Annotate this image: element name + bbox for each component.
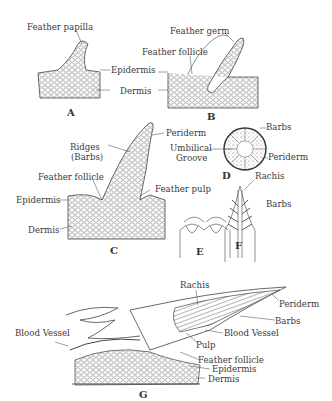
label-barbs-c: (Barbs) <box>71 153 103 162</box>
label-pulp: Pulp <box>196 341 216 350</box>
panel-label-g: G <box>139 389 148 400</box>
label-dermis-a: Dermis <box>120 87 151 96</box>
label-dermis-g: Dermis <box>208 375 239 384</box>
label-periderm-d: Periderm <box>268 153 308 162</box>
label-feather-papilla: Feather papilla <box>27 23 93 32</box>
panel-label-e: E <box>196 246 204 257</box>
label-ridges: Ridges <box>70 143 100 152</box>
panel-label-a: A <box>67 107 75 118</box>
label-groove: Groove <box>176 154 207 163</box>
label-barbs-f: Barbs <box>266 200 291 209</box>
panel-label-d: D <box>222 170 231 181</box>
label-periderm-g: Periderm <box>279 300 319 309</box>
panel-e-drawing <box>180 217 230 258</box>
label-epidermis-a: Epidermis <box>111 66 156 75</box>
label-feather-follicle-b: Feather follicle <box>142 48 208 57</box>
label-barbs-d: Barbs <box>266 123 291 132</box>
panel-label-b: B <box>207 111 215 122</box>
panel-label-f: F <box>235 240 242 251</box>
label-feather-pulp: Feather pulp <box>155 185 211 194</box>
label-dermis-c: Dermis <box>28 226 59 235</box>
label-blood-vessel-left: Blood Vessel <box>15 329 70 338</box>
panel-label-c: C <box>110 245 118 256</box>
label-rachis-f: Rachis <box>255 172 284 181</box>
label-epidermis-c: Epidermis <box>16 196 61 205</box>
label-umbilical: Umbilical <box>170 144 212 153</box>
label-periderm-c: Periderm <box>166 129 206 138</box>
label-barbs-g: Barbs <box>275 317 300 326</box>
label-epidermis-g: Epidermis <box>212 365 257 374</box>
label-blood-vessel-right: Blood Vessel <box>224 329 279 338</box>
panel-d-drawing <box>210 128 268 170</box>
panel-a-drawing <box>38 30 110 98</box>
label-feather-follicle-c: Feather follicle <box>38 173 104 182</box>
panel-b-drawing <box>158 33 258 108</box>
label-feather-germ: Feather germ <box>170 27 229 36</box>
label-rachis-g: Rachis <box>180 281 209 290</box>
